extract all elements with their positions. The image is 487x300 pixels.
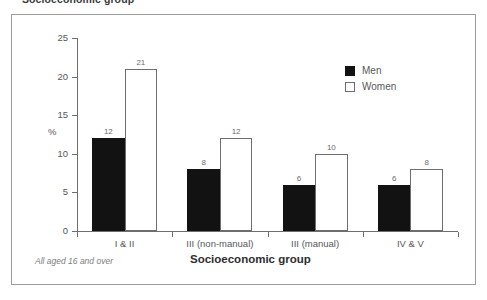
- bar-women-1: [220, 138, 253, 231]
- bar-women-3: [410, 169, 443, 231]
- bar-women-2: [315, 154, 348, 231]
- y-axis-tick: [72, 77, 77, 78]
- y-axis-tick-label: 5: [44, 187, 68, 197]
- x-axis-tick: [172, 232, 173, 237]
- legend-swatch-icon: [345, 66, 355, 76]
- y-axis-tick-label: 10: [44, 149, 68, 159]
- x-axis-tick: [458, 232, 459, 237]
- x-axis-title: Socioeconomic group: [190, 253, 311, 265]
- bar-value-label: 21: [125, 59, 158, 67]
- footnote: All aged 16 and over: [35, 256, 113, 266]
- bar-value-label: 12: [220, 128, 253, 136]
- x-axis-category-label: I & II: [77, 238, 172, 249]
- x-axis-tick: [268, 232, 269, 237]
- y-axis-title: %: [48, 126, 56, 137]
- bar-men-2: [283, 185, 316, 231]
- bar-value-label: 8: [410, 159, 443, 167]
- x-axis-tick: [77, 232, 78, 237]
- y-axis-tick: [72, 192, 77, 193]
- legend-label: Men: [362, 66, 381, 76]
- y-axis-tick: [72, 154, 77, 155]
- bar-value-label: 6: [283, 175, 316, 183]
- y-axis-tick-label: 15: [44, 110, 68, 120]
- chart-legend: MenWomen: [345, 64, 396, 96]
- legend-label: Women: [362, 82, 396, 92]
- bar-men-0: [92, 138, 125, 231]
- bar-value-label: 6: [378, 175, 411, 183]
- legend-swatch-icon: [345, 82, 355, 92]
- legend-item-women: Women: [345, 80, 396, 94]
- y-axis-tick: [72, 115, 77, 116]
- x-axis-category-label: III (manual): [268, 238, 363, 249]
- bar-value-label: 12: [92, 128, 125, 136]
- y-axis-tick-label: 25: [44, 33, 68, 43]
- y-axis-tick: [72, 38, 77, 39]
- bar-value-label: 8: [187, 159, 220, 167]
- legend-item-men: Men: [345, 64, 396, 78]
- x-axis-tick: [363, 232, 364, 237]
- bar-men-1: [187, 169, 220, 231]
- bar-men-3: [378, 185, 411, 231]
- y-axis-tick-label: 0: [44, 226, 68, 236]
- bar-value-label: 10: [315, 144, 348, 152]
- y-axis-line: [77, 38, 78, 232]
- x-axis-category-label: III (non-manual): [172, 238, 267, 249]
- y-axis-tick-label: 20: [44, 72, 68, 82]
- bar-women-0: [125, 69, 158, 231]
- x-axis-category-label: IV & V: [363, 238, 458, 249]
